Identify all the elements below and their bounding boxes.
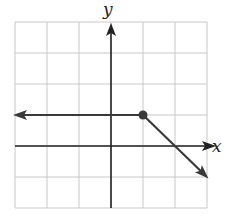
closed-dot-marker bbox=[139, 111, 148, 120]
linear-ray bbox=[143, 115, 201, 171]
x-axis-label: x bbox=[212, 136, 222, 156]
graph: x y bbox=[0, 0, 229, 221]
y-axis-label: y bbox=[102, 0, 113, 19]
